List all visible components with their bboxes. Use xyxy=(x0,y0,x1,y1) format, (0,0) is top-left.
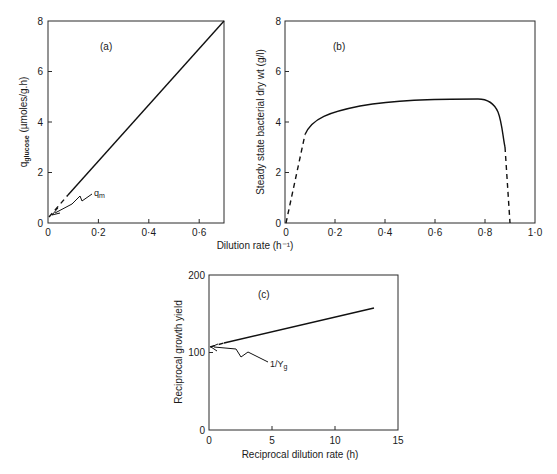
panel-c-frame xyxy=(209,275,398,430)
c-line-solid xyxy=(224,308,374,343)
qm-arrow-line xyxy=(55,194,92,213)
panel-c: 0 5 10 15 0 100 200 1/Yg (c) Reciprocal … xyxy=(173,270,404,460)
a-xtick-1: 0·2 xyxy=(91,227,106,238)
c-xtick-1: 5 xyxy=(269,435,275,446)
b-xtick-5: 1·0 xyxy=(528,227,543,238)
b-line-solid xyxy=(305,99,505,147)
c-xtick-2: 10 xyxy=(329,435,341,446)
b-ylabel: Steady state bacterial dry wt (g/l) xyxy=(255,49,266,195)
panel-b-frame xyxy=(285,21,535,223)
a-ytick-1: 2 xyxy=(37,167,43,178)
panel-c-label: (c) xyxy=(258,289,270,300)
figure: 0 0·2 0·4 0·6 0 2 4 6 8 qm (a) qglucose … xyxy=(0,0,557,474)
b-ytick-3: 6 xyxy=(275,66,281,77)
ab-xlabel: Dilution rate (h⁻¹) xyxy=(217,240,294,251)
b-ytick-0: 0 xyxy=(275,218,281,229)
c-ytick-2: 200 xyxy=(188,270,205,281)
b-xtick-0: 0 xyxy=(283,227,289,238)
c-ytick-0: 0 xyxy=(199,425,205,436)
a-ytick-0: 0 xyxy=(37,218,43,229)
c-ylabel: Reciprocal growth yield xyxy=(173,300,184,403)
c-ytick-1: 100 xyxy=(188,347,205,358)
panel-b: 0 0·2 0·4 0·6 0·8 1·0 0 2 4 6 8 (b) Stea… xyxy=(255,16,543,238)
b-xtick-3: 0·6 xyxy=(428,227,443,238)
c-xtick-0: 0 xyxy=(206,435,212,446)
a-ytick-3: 6 xyxy=(37,66,43,77)
panel-a: 0 0·2 0·4 0·6 0 2 4 6 8 qm (a) qglucose … xyxy=(18,16,224,238)
b-ytick-1: 2 xyxy=(275,167,281,178)
b-line-dashed-washout xyxy=(505,147,510,223)
yg-arrow-line xyxy=(214,347,268,362)
a-line-solid xyxy=(68,21,224,195)
b-xtick-2: 0·4 xyxy=(378,227,393,238)
b-xtick-4: 0·8 xyxy=(478,227,493,238)
b-line-dashed-rise xyxy=(286,135,305,223)
b-xtick-1: 0·2 xyxy=(328,227,343,238)
panel-a-label: (a) xyxy=(100,41,112,52)
a-xtick-3: 0·6 xyxy=(192,227,207,238)
panel-b-label: (b) xyxy=(333,41,345,52)
yg-label: 1/Yg xyxy=(270,359,288,371)
a-xtick-2: 0·4 xyxy=(142,227,157,238)
c-xlabel: Reciprocal dilution rate (h) xyxy=(242,449,359,460)
c-xtick-3: 15 xyxy=(392,435,404,446)
b-ytick-4: 8 xyxy=(275,16,281,27)
b-ytick-2: 4 xyxy=(275,117,281,128)
qm-label: qm xyxy=(94,188,105,199)
a-ylabel: qglucose (µmoles/g.h) xyxy=(18,77,31,168)
a-xtick-0: 0 xyxy=(45,227,51,238)
a-ytick-2: 4 xyxy=(37,117,43,128)
a-ytick-4: 8 xyxy=(37,16,43,27)
